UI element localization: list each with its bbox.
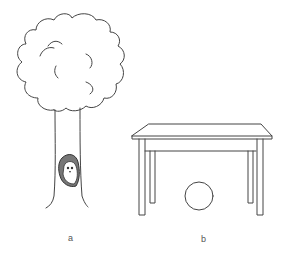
ball [185, 182, 213, 210]
panel-label-b: b [201, 234, 206, 244]
table-leg-front-left [139, 139, 145, 215]
illustration: a b [0, 0, 286, 254]
table-leg-front-right [257, 139, 263, 215]
table-top [132, 124, 272, 136]
tree [17, 14, 124, 208]
tree-canopy [17, 14, 124, 112]
canopy-detail [86, 54, 92, 68]
canopy-detail [48, 41, 62, 46]
canopy-detail [86, 82, 93, 94]
tree-trunk-right [80, 108, 88, 207]
table-leg-back-left [150, 151, 155, 203]
animal-eye [71, 167, 73, 169]
tree-trunk-left [46, 110, 55, 208]
animal-eye [67, 167, 69, 169]
tree-hollow [59, 155, 80, 187]
table [132, 124, 272, 215]
panel-label-a: a [68, 233, 73, 243]
canopy-detail [55, 66, 58, 78]
table-leg-back-right [248, 151, 253, 203]
canopy-detail [40, 47, 54, 56]
